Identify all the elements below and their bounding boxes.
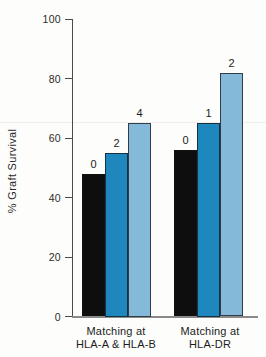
bar-value-label: 0 bbox=[174, 134, 197, 146]
y-tick-label: 60 bbox=[27, 133, 61, 143]
bar-value-label: 1 bbox=[197, 107, 220, 119]
group-label-line1: Matching at bbox=[155, 325, 265, 338]
group-label-line2: HLA-DR bbox=[155, 338, 265, 351]
bar bbox=[82, 174, 105, 317]
y-tick bbox=[65, 257, 72, 258]
y-tick bbox=[65, 197, 72, 198]
bar bbox=[105, 153, 128, 317]
bar bbox=[174, 150, 197, 317]
y-tick bbox=[65, 78, 72, 79]
y-axis-line bbox=[72, 19, 73, 317]
bar-value-label: 0 bbox=[82, 158, 105, 170]
bar-value-label: 2 bbox=[105, 137, 128, 149]
y-tick-label: 80 bbox=[27, 74, 61, 84]
bar bbox=[197, 123, 220, 316]
y-axis-title: % Graft Survival bbox=[6, 111, 20, 231]
y-tick bbox=[65, 138, 72, 139]
y-tick bbox=[65, 19, 72, 20]
y-tick-label: 0 bbox=[27, 312, 61, 322]
y-tick bbox=[65, 316, 72, 317]
group-label-hla-dr: Matching at HLA-DR bbox=[155, 325, 265, 351]
graft-survival-chart: % Graft Survival 020406080100024012 Matc… bbox=[0, 0, 266, 357]
bar-value-label: 2 bbox=[220, 57, 243, 69]
y-tick-label: 40 bbox=[27, 193, 61, 203]
bar bbox=[220, 73, 243, 317]
bar-value-label: 4 bbox=[128, 107, 151, 119]
y-tick-label: 100 bbox=[27, 14, 61, 24]
bar bbox=[128, 123, 151, 316]
y-tick-label: 20 bbox=[27, 252, 61, 262]
